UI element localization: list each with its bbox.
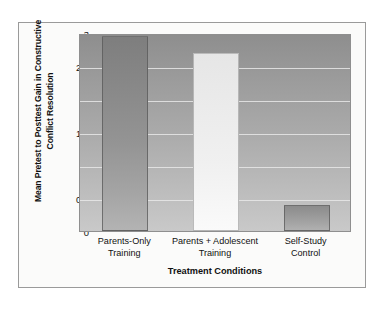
x-tick-label-line: Control <box>260 248 351 260</box>
x-axis-tick-labels: Parents-OnlyTrainingParents + Adolescent… <box>79 236 351 266</box>
x-tick-label: Self-StudyControl <box>260 236 351 260</box>
x-tick-label: Parents + AdolescentTraining <box>170 236 261 260</box>
bar-3 <box>284 205 330 231</box>
x-axis-title: Treatment Conditions <box>79 266 351 276</box>
x-tick-label-line: Training <box>79 248 170 260</box>
x-tick-label-line: Training <box>170 248 261 260</box>
y-axis-title: Mean Pretest to Posttest Gain in Constru… <box>33 11 61 211</box>
x-tick-label-line: Parents + Adolescent <box>170 236 261 248</box>
x-tick-label-line: Self-Study <box>260 236 351 248</box>
bar-2 <box>193 53 239 231</box>
figure-frame: Mean Pretest to Posttest Gain in Constru… <box>18 22 366 288</box>
x-tick-label: Parents-OnlyTraining <box>79 236 170 260</box>
bars-group <box>80 35 350 231</box>
bar-1 <box>102 36 148 231</box>
plot-area <box>79 34 351 232</box>
x-tick-label-line: Parents-Only <box>79 236 170 248</box>
